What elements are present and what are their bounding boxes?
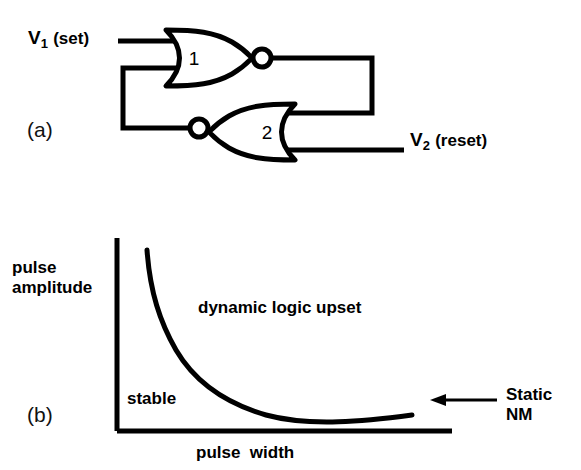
figure-page: 1 2 (	[0, 0, 581, 470]
signal-label-reset: V2 (reset)	[410, 129, 487, 151]
gate-2-body	[209, 104, 295, 160]
gate-2-bubble-icon	[190, 119, 208, 137]
gate-1-body	[166, 30, 252, 86]
y-axis-label: pulse amplitude	[12, 258, 92, 298]
upset-threshold-curve	[147, 250, 412, 422]
signal-reset-symbol: V	[410, 129, 423, 150]
gate-2-number: 2	[262, 122, 273, 143]
gate-1-bubble-icon	[253, 49, 271, 67]
static-nm-arrow-icon	[430, 394, 497, 406]
figure-canvas: 1 2	[0, 0, 581, 470]
circuit-schematic: 1 2	[118, 30, 404, 160]
signal-reset-text: (reset)	[435, 131, 487, 150]
signal-set-symbol: V	[28, 27, 41, 48]
annotation-dynamic-logic-upset: dynamic logic upset	[198, 298, 361, 318]
panel-b-label: (b)	[27, 403, 53, 427]
signal-set-subscript: 1	[41, 36, 48, 51]
signal-reset-subscript: 2	[423, 138, 430, 153]
annotation-stable: stable	[127, 389, 176, 409]
signal-set-text: (set)	[53, 29, 89, 48]
x-axis-label: pulse width	[196, 443, 294, 463]
gate-1-number: 1	[189, 48, 200, 69]
panel-a-label: (a)	[27, 118, 53, 142]
signal-label-set: V1 (set)	[28, 27, 89, 49]
annotation-static-nm: Static NM	[506, 385, 552, 426]
